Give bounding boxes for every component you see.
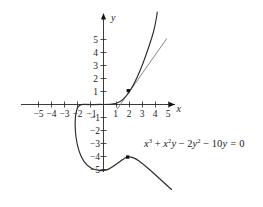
y-tick-label: 3 xyxy=(93,61,98,71)
exponent-3: 3 xyxy=(149,137,152,144)
x-tick-label: −5 xyxy=(33,109,43,119)
y-tick-label: 4 xyxy=(93,48,98,58)
y-tick-label: −2 xyxy=(90,126,100,136)
equation-operator-plus: + xyxy=(155,138,161,149)
figure-container: x y −5 −4 −3 −2 −1 1 2 3 4 5 xyxy=(0,0,263,207)
x-tick-label: 2 xyxy=(127,109,132,119)
equation-term-x2y: x2y xyxy=(163,138,176,149)
y-tick-label: −3 xyxy=(90,139,100,149)
equation-annotation: x3+x2y−2y2−10y=0 xyxy=(144,138,245,149)
x-tick-label: −3 xyxy=(59,109,69,119)
y-tick-label: −1 xyxy=(90,113,100,123)
y-tick-label: 1 xyxy=(93,87,98,97)
equation-term-10y: 10y xyxy=(212,138,227,149)
x-tick-label: 4 xyxy=(153,109,158,119)
x-tick-label: −4 xyxy=(46,109,56,119)
y-axis-arrow xyxy=(101,13,106,20)
y-axis-label: y xyxy=(110,12,116,23)
x-tick-label: 1 xyxy=(113,109,118,119)
x-axis-arrow xyxy=(169,102,175,107)
y-tick-label: −4 xyxy=(90,152,100,162)
equation-operator-minus-1: − xyxy=(179,138,185,149)
implicit-curve-chart: x y −5 −4 −3 −2 −1 1 2 3 4 5 xyxy=(0,0,263,207)
tangency-point-marker xyxy=(127,89,130,92)
y-tick-label: 5 xyxy=(93,35,98,45)
x-tick-label: 5 xyxy=(166,109,171,119)
curve-lower-branch xyxy=(108,157,172,190)
equation-rhs: 0 xyxy=(239,138,244,149)
curve-group xyxy=(75,12,171,190)
equation-operator-equals: = xyxy=(230,138,236,149)
equation-term-2y2: 2y2 xyxy=(187,138,201,149)
local-max-point-marker xyxy=(126,155,129,158)
x-tick-label: 3 xyxy=(140,109,145,119)
equation-term-x-cubed: x3 xyxy=(144,138,152,149)
x-axis-label: x xyxy=(176,103,182,114)
exponent-2: 2 xyxy=(197,137,200,144)
equation-operator-minus-2: − xyxy=(203,138,209,149)
y-tick-label: 2 xyxy=(93,74,98,84)
x-tick-label: −2 xyxy=(72,109,82,119)
